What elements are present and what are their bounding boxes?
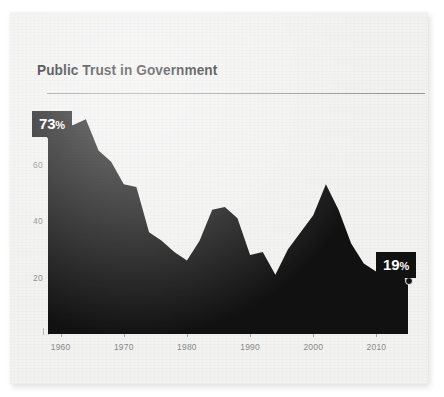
page-title: Public Trust in Government bbox=[37, 62, 217, 78]
title-divider bbox=[47, 93, 425, 94]
start-value-badge: 73% bbox=[32, 111, 72, 137]
x-axis-tick-mark bbox=[313, 334, 314, 337]
end-value-badge: 19% bbox=[376, 252, 416, 278]
x-axis-tick-label: 2010 bbox=[367, 342, 387, 352]
x-axis-tick-label: 1980 bbox=[177, 342, 197, 352]
x-axis-tick-label: 1970 bbox=[114, 342, 134, 352]
y-axis-tick-label: 60 bbox=[33, 160, 43, 170]
start-value-text: 73 bbox=[39, 115, 55, 132]
x-axis-tick-label: 1990 bbox=[240, 342, 260, 352]
plot-area bbox=[48, 108, 408, 334]
chart-card: Public Trust in Government 204060 196019… bbox=[10, 12, 428, 384]
x-axis-tick-label: 2000 bbox=[303, 342, 323, 352]
page-root: Public Trust in Government 204060 196019… bbox=[0, 0, 444, 397]
x-axis-tick-mark bbox=[124, 334, 125, 337]
area-chart-series bbox=[48, 108, 408, 334]
x-axis: 196019701980199020002010 bbox=[48, 334, 408, 358]
x-axis-tick-mark bbox=[250, 334, 251, 337]
end-data-point bbox=[405, 277, 413, 285]
y-axis-tick-label: 40 bbox=[33, 216, 43, 226]
end-value-suffix: % bbox=[399, 260, 409, 272]
x-axis-tick-mark bbox=[61, 334, 62, 337]
x-axis-tick-mark bbox=[187, 334, 188, 337]
x-axis-tick-mark bbox=[376, 334, 377, 337]
x-axis-tick-label: 1960 bbox=[51, 342, 71, 352]
end-value-text: 19 bbox=[383, 256, 399, 273]
y-axis-tick-label: 20 bbox=[33, 273, 43, 283]
y-axis-labels: 204060 bbox=[24, 108, 43, 334]
start-value-suffix: % bbox=[55, 119, 65, 131]
